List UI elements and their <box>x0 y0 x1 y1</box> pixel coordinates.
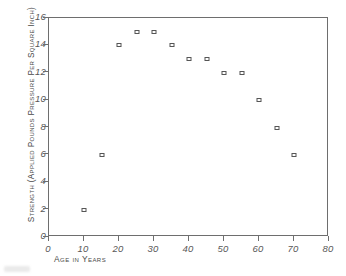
data-point <box>117 43 122 47</box>
x-tick-mark <box>223 236 224 241</box>
scatter-chart-figure: Strength (Applied Pounds Pressure Per Sq… <box>0 0 346 276</box>
x-tick-mark <box>188 236 189 241</box>
data-point <box>257 98 262 102</box>
data-point <box>169 43 174 47</box>
x-tick-label: 20 <box>105 243 131 254</box>
data-point <box>292 153 297 157</box>
scan-artifact <box>4 266 30 272</box>
x-tick-mark <box>48 236 49 241</box>
x-tick-label: 60 <box>245 243 271 254</box>
data-point <box>82 208 87 212</box>
y-axis-title: Strength (Applied Pounds Pressure Per Sq… <box>27 0 36 230</box>
x-tick-label: 10 <box>70 243 96 254</box>
plot-area <box>48 17 328 236</box>
data-point <box>204 57 209 61</box>
x-tick-mark <box>83 236 84 241</box>
x-tick-mark <box>153 236 154 241</box>
x-tick-label: 30 <box>140 243 166 254</box>
data-point <box>152 30 157 34</box>
data-point <box>274 126 279 130</box>
data-point <box>239 71 244 75</box>
x-tick-label: 80 <box>315 243 341 254</box>
x-tick-mark <box>328 236 329 241</box>
x-tick-mark <box>118 236 119 241</box>
x-tick-label: 40 <box>175 243 201 254</box>
x-tick-label: 70 <box>280 243 306 254</box>
x-tick-label: 0 <box>35 243 61 254</box>
x-axis-title: Age in Years <box>54 254 106 264</box>
data-point <box>99 153 104 157</box>
x-tick-label: 50 <box>210 243 236 254</box>
data-point <box>222 71 227 75</box>
data-point <box>187 57 192 61</box>
x-tick-mark <box>258 236 259 241</box>
x-tick-mark <box>293 236 294 241</box>
data-point <box>134 30 139 34</box>
